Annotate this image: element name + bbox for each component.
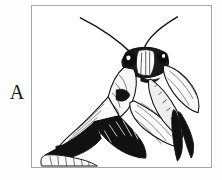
panel-label-a: A — [6, 78, 28, 106]
compound-eye-left-highlight — [126, 56, 130, 61]
figure-frame — [31, 5, 212, 168]
figure-panel: A — [0, 0, 222, 180]
compound-eye-right-highlight — [162, 54, 165, 58]
praying-mantis-illustration — [32, 6, 211, 167]
